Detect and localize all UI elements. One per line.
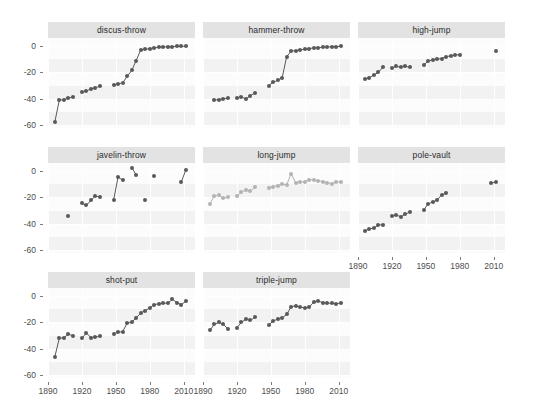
- data-point: [221, 97, 225, 101]
- data-point: [435, 57, 439, 61]
- data-point: [239, 320, 243, 324]
- data-point: [280, 316, 284, 320]
- data-point: [339, 301, 343, 305]
- data-point: [121, 81, 125, 85]
- x-axis-tick-label: 1980: [289, 387, 321, 396]
- y-axis-tick-label: -20: [8, 318, 36, 327]
- data-point: [321, 45, 325, 49]
- data-point: [403, 212, 407, 216]
- data-point: [121, 178, 125, 182]
- y-axis-tick-mark: [40, 224, 43, 225]
- data-point: [408, 210, 412, 214]
- data-point: [130, 320, 134, 324]
- data-point: [267, 323, 271, 327]
- data-point: [143, 309, 147, 313]
- data-point: [93, 86, 97, 90]
- x-axis-tick-mark: [48, 382, 49, 385]
- data-point: [289, 172, 293, 176]
- series-line: [358, 38, 505, 128]
- facet-strip-discus-throw: discus-throw: [48, 22, 195, 38]
- data-point: [312, 300, 316, 304]
- data-point: [276, 184, 280, 188]
- data-point: [289, 305, 293, 309]
- data-point: [161, 45, 165, 49]
- data-point: [321, 180, 325, 184]
- facet-strip-long-jump: long-jump: [203, 147, 350, 163]
- facet-strip-javelin-throw: javelin-throw: [48, 147, 195, 163]
- data-point: [381, 223, 385, 227]
- y-axis-tick-mark: [40, 296, 43, 297]
- data-point: [226, 195, 230, 199]
- data-point: [134, 173, 138, 177]
- data-point: [376, 223, 380, 227]
- data-point: [179, 44, 183, 48]
- y-axis-tick-mark: [40, 46, 43, 47]
- data-point: [116, 82, 120, 86]
- data-point: [298, 180, 302, 184]
- x-axis-tick-mark: [271, 382, 272, 385]
- data-point: [139, 48, 143, 52]
- data-point: [148, 47, 152, 51]
- facet-strip-label: shot-put: [106, 276, 138, 285]
- data-point: [307, 305, 311, 309]
- data-point: [175, 301, 179, 305]
- y-axis-tick-label: -40: [8, 95, 36, 104]
- data-point: [235, 326, 239, 330]
- data-point: [98, 334, 102, 338]
- data-point: [372, 226, 376, 230]
- data-point: [303, 47, 307, 51]
- data-point: [57, 336, 61, 340]
- data-point: [170, 45, 174, 49]
- data-point: [339, 180, 343, 184]
- data-point: [399, 215, 403, 219]
- data-point: [152, 46, 156, 50]
- y-axis-tick-mark: [40, 72, 43, 73]
- facet-strip-hammer-throw: hammer-throw: [203, 22, 350, 38]
- x-axis-tick-label: 1890: [187, 387, 219, 396]
- data-point: [179, 180, 183, 184]
- y-axis-tick-mark: [40, 375, 43, 376]
- facet-strip-high-jump: high-jump: [358, 22, 505, 38]
- data-point: [422, 208, 426, 212]
- data-point: [248, 318, 252, 322]
- data-point: [440, 193, 444, 197]
- x-axis-tick-mark: [237, 382, 238, 385]
- data-point: [390, 214, 394, 218]
- data-point: [298, 48, 302, 52]
- data-point: [57, 98, 61, 102]
- data-point: [276, 78, 280, 82]
- data-point: [143, 198, 147, 202]
- data-point: [267, 84, 271, 88]
- x-axis-tick-label: 1980: [134, 387, 166, 396]
- data-point: [152, 303, 156, 307]
- data-point: [294, 49, 298, 53]
- data-point: [71, 334, 75, 338]
- plot-area-hammer-throw: [203, 38, 350, 128]
- data-point: [376, 70, 380, 74]
- data-point: [217, 98, 221, 102]
- series-line: [48, 163, 195, 253]
- y-axis-tick-mark: [40, 322, 43, 323]
- x-axis-tick-label: 1950: [100, 387, 132, 396]
- data-point: [235, 194, 239, 198]
- data-point: [312, 178, 316, 182]
- data-point: [130, 68, 134, 72]
- data-point: [390, 66, 394, 70]
- data-point: [157, 45, 161, 49]
- facet-panel-javelin-throw: javelin-throw: [48, 147, 195, 253]
- data-point: [253, 315, 257, 319]
- x-axis-tick-label: 1950: [410, 262, 442, 271]
- data-point: [98, 84, 102, 88]
- plot-area-triple-jump: [203, 288, 350, 378]
- y-axis-tick-label: -20: [8, 193, 36, 202]
- data-point: [394, 213, 398, 217]
- data-point: [170, 297, 174, 301]
- facet-panel-long-jump: long-jump: [203, 147, 350, 253]
- data-point: [208, 202, 212, 206]
- facet-panel-shot-put: shot-put: [48, 272, 195, 378]
- facet-strip-label: high-jump: [412, 26, 450, 35]
- y-axis-tick-mark: [40, 125, 43, 126]
- plot-area-shot-put: [48, 288, 195, 378]
- data-point: [71, 95, 75, 99]
- data-point: [244, 97, 248, 101]
